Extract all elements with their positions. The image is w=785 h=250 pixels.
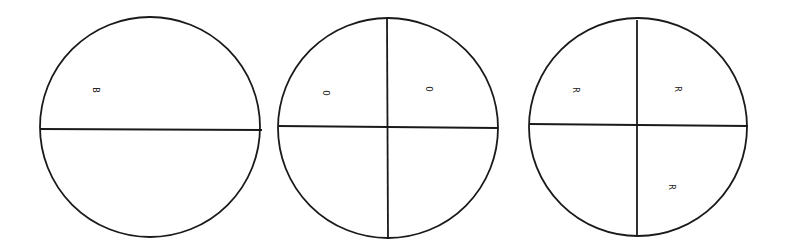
circle-outline (529, 18, 747, 236)
fraction-circles-diagram: B O O R R R (0, 0, 785, 250)
horizontal-divider (529, 124, 748, 126)
circle-outline (40, 17, 260, 237)
region-label: O (424, 86, 434, 91)
region-label: R (673, 86, 683, 92)
region-label: B (91, 87, 101, 92)
circle-halves: B (40, 17, 262, 237)
circle-quarters-o: O O (278, 18, 498, 239)
vertical-divider (387, 18, 388, 239)
region-label: R (667, 184, 677, 190)
horizontal-divider (40, 129, 262, 130)
region-label: O (321, 90, 331, 95)
region-label: R (571, 87, 581, 93)
circle-quarters-r: R R R (529, 18, 748, 236)
